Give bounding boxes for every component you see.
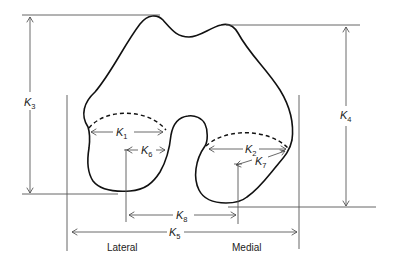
medial-label: Medial: [232, 242, 261, 253]
k7-label: K7: [255, 155, 267, 170]
k5-label: K5: [169, 226, 181, 241]
k4-dimension: K4: [340, 27, 352, 206]
k7-dimension: K7: [234, 150, 285, 170]
k8-dimension: K8: [129, 209, 236, 224]
k5-dimension: K5: [72, 226, 297, 241]
k2-dimension: K2: [209, 143, 286, 158]
k4-label: K4: [340, 109, 352, 124]
femur-outline: [84, 16, 293, 203]
lateral-condyle-arc: [89, 113, 166, 130]
k1-dimension: K1: [91, 126, 163, 141]
distal-femur-diagram: K3 K4 K1 K6 K2 K7: [0, 0, 394, 270]
k6-label: K6: [141, 144, 153, 159]
k1-label: K1: [116, 126, 128, 141]
k8-label: K8: [176, 209, 188, 224]
k3-label: K3: [24, 96, 36, 111]
lateral-label: Lateral: [107, 242, 138, 253]
k3-dimension: K3: [24, 17, 36, 193]
k6-dimension: K6: [124, 144, 165, 159]
